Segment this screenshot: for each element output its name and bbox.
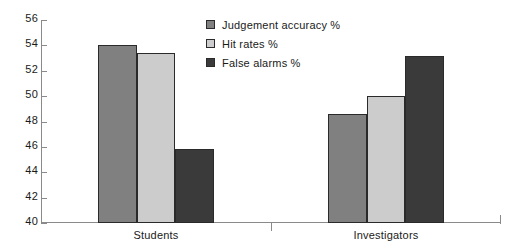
x-axis-tick-mark [271, 223, 272, 231]
bar [98, 45, 137, 223]
legend-swatch-hit-rates [206, 39, 215, 48]
y-axis-tick: 50 [0, 96, 47, 97]
y-axis-tick-label: 54 [25, 37, 38, 49]
bar [137, 53, 176, 223]
y-axis-tick-mark [41, 71, 47, 72]
legend-label-hit-rates: Hit rates % [222, 38, 278, 50]
legend: Judgement accuracy % Hit rates % False a… [206, 15, 340, 72]
y-axis-tick-mark [41, 172, 47, 173]
y-axis-tick-mark [41, 45, 47, 46]
y-axis-tick: 44 [0, 172, 47, 173]
y-axis-tick-label: 46 [25, 139, 38, 151]
y-axis-tick-label: 44 [25, 164, 38, 176]
legend-label-false-alarms: False alarms % [222, 57, 301, 69]
y-axis-tick-mark [41, 122, 47, 123]
y-axis-tick: 46 [0, 147, 47, 148]
y-axis-tick: 54 [0, 45, 47, 46]
y-axis-tick-label: 56 [25, 12, 38, 24]
y-axis-tick-label: 40 [25, 215, 38, 227]
legend-label-judgement-accuracy: Judgement accuracy % [222, 19, 340, 31]
x-axis-category-label: Students [86, 229, 226, 241]
y-axis-tick: 52 [0, 71, 47, 72]
y-axis-tick-mark [41, 223, 47, 224]
legend-swatch-false-alarms [206, 58, 215, 67]
y-axis-tick-mark [41, 96, 47, 97]
bar [367, 96, 406, 223]
legend-item: False alarms % [206, 53, 340, 72]
bar-chart: 404244464850525456 StudentsInvestigators… [0, 0, 511, 249]
y-axis-tick-label: 50 [25, 88, 38, 100]
y-axis-tick: 56 [0, 20, 47, 21]
bar [175, 149, 214, 223]
y-axis-tick-label: 48 [25, 114, 38, 126]
bar [328, 114, 367, 223]
y-axis-tick-mark [41, 147, 47, 148]
x-axis-category-label: Investigators [316, 229, 456, 241]
y-axis-tick-label: 42 [25, 190, 38, 202]
y-axis-tick: 40 [0, 223, 47, 224]
legend-item: Judgement accuracy % [206, 15, 340, 34]
y-axis-tick: 48 [0, 122, 47, 123]
y-axis-tick-mark [41, 198, 47, 199]
axis-end-tick [500, 215, 501, 224]
y-axis-tick: 42 [0, 198, 47, 199]
y-axis-tick-mark [41, 20, 47, 21]
legend-swatch-judgement-accuracy [206, 20, 215, 29]
bar [405, 56, 444, 223]
legend-item: Hit rates % [206, 34, 340, 53]
y-axis-tick-label: 52 [25, 63, 38, 75]
